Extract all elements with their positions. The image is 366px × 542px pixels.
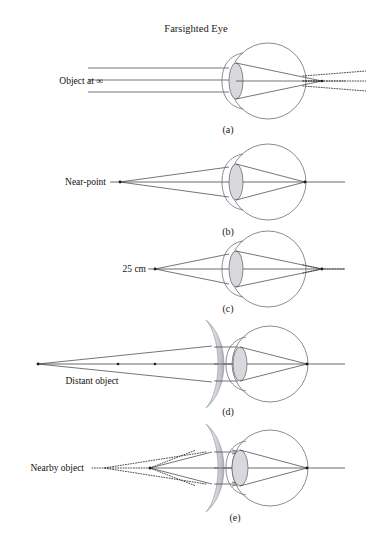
retina-focus-e: [306, 467, 309, 470]
panel-label-b: (b): [222, 226, 234, 238]
axis-dot-d-1: [117, 363, 120, 366]
object-label-a: Object at ∞: [59, 76, 103, 86]
object-point-d: [37, 363, 40, 366]
figure-canvas: Farsighted Eye: [0, 0, 366, 542]
eye-lens-c: [229, 251, 243, 287]
farsighted-eye-figure: Farsighted Eye: [0, 0, 366, 542]
panel-label-d: (d): [222, 406, 234, 418]
object-point-e: [149, 467, 152, 470]
object-label-d: Distant object: [65, 376, 118, 386]
eye-lens-d: [233, 347, 247, 381]
figure-title: Farsighted Eye: [164, 23, 228, 34]
object-label-e: Nearby object: [30, 463, 84, 473]
panel-label-c: (c): [222, 303, 233, 315]
panel-d: Distant object (d): [37, 320, 345, 418]
panel-e: Nearby object (e): [30, 424, 345, 524]
retina-focus-b: [304, 181, 307, 184]
incoming-rays-a: [88, 68, 229, 92]
panel-a: Object at ∞ (a): [59, 43, 366, 136]
panel-b: Near-point (b): [65, 144, 345, 238]
object-label-b: Near-point: [65, 177, 106, 187]
retina-focus-d: [306, 363, 309, 366]
eye-lens-e: [232, 450, 248, 486]
panel-label-a: (a): [222, 124, 233, 136]
panel-label-e: (e): [229, 512, 240, 524]
axis-dot-d-2: [154, 363, 157, 366]
object-label-c: 25 cm: [123, 264, 147, 274]
eye-lens-b: [229, 164, 243, 200]
focal-point-a: [321, 80, 324, 83]
panel-c: 25 cm (c): [123, 231, 345, 315]
focal-point-c: [321, 268, 324, 271]
